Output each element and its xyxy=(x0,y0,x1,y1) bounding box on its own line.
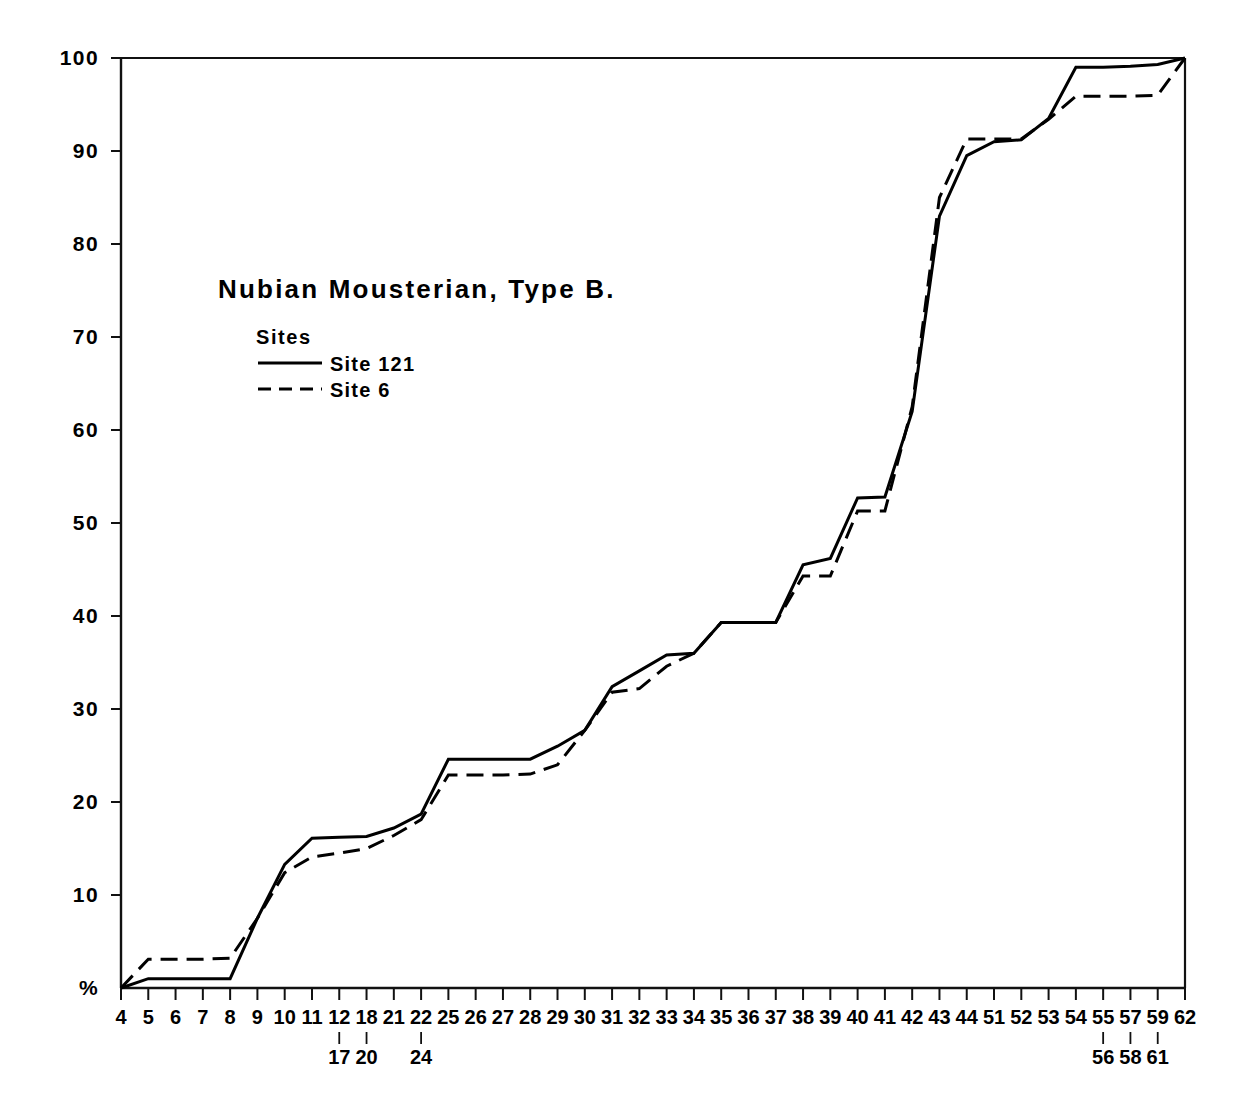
y-tick-label: % xyxy=(79,976,99,999)
data-series-group xyxy=(121,58,1185,988)
x-tick-label: 28 xyxy=(519,1006,541,1028)
x-tick-label: 34 xyxy=(683,1006,706,1028)
legend: Sites Site 121 Site 6 xyxy=(256,326,415,401)
x-tick-label: 33 xyxy=(656,1006,678,1028)
x-tick-label: 40 xyxy=(846,1006,868,1028)
x-tick-label: 36 xyxy=(737,1006,759,1028)
x-tick-label: 25 xyxy=(437,1006,459,1028)
x-tick-sublabel: 61 xyxy=(1147,1046,1169,1068)
series-line-site-6 xyxy=(121,58,1185,988)
y-tick-label: 90 xyxy=(73,139,99,162)
legend-label-site-6: Site 6 xyxy=(330,379,391,401)
legend-title: Sites xyxy=(256,326,312,348)
y-tick-label: 70 xyxy=(73,325,99,348)
y-axis-ticks: 100908070605040302010% xyxy=(60,46,121,999)
x-tick-label: 39 xyxy=(819,1006,841,1028)
y-tick-label: 20 xyxy=(73,790,99,813)
x-tick-sublabel: 20 xyxy=(355,1046,377,1068)
plot-frame xyxy=(121,58,1185,988)
chart-title: Nubian Mousterian, Type B. xyxy=(218,274,616,304)
x-tick-label: 9 xyxy=(252,1006,263,1028)
x-tick-label: 6 xyxy=(170,1006,181,1028)
legend-label-site-121: Site 121 xyxy=(330,353,415,375)
x-tick-label: 57 xyxy=(1119,1006,1141,1028)
y-tick-label: 10 xyxy=(73,883,99,906)
x-tick-label: 11 xyxy=(301,1006,322,1028)
x-tick-label: 41 xyxy=(874,1006,896,1028)
series-line-site-121 xyxy=(121,58,1185,988)
x-tick-sublabel: 56 xyxy=(1092,1046,1114,1068)
x-tick-label: 10 xyxy=(274,1006,296,1028)
figure-container: 100908070605040302010% 45678910111217182… xyxy=(0,0,1233,1093)
x-tick-label: 22 xyxy=(410,1006,432,1028)
x-tick-label: 30 xyxy=(574,1006,596,1028)
x-tick-label: 26 xyxy=(465,1006,487,1028)
x-tick-label: 51 xyxy=(983,1006,1005,1028)
x-tick-label: 43 xyxy=(928,1006,950,1028)
x-tick-label: 44 xyxy=(956,1006,979,1028)
x-tick-label: 4 xyxy=(115,1006,127,1028)
x-tick-label: 27 xyxy=(492,1006,514,1028)
x-tick-label: 38 xyxy=(792,1006,814,1028)
x-tick-label: 12 xyxy=(328,1006,350,1028)
y-tick-label: 60 xyxy=(73,418,99,441)
x-tick-label: 21 xyxy=(383,1006,405,1028)
x-tick-sublabel: 17 xyxy=(328,1046,350,1068)
x-tick-label: 59 xyxy=(1147,1006,1169,1028)
x-tick-label: 55 xyxy=(1092,1006,1114,1028)
x-tick-label: 52 xyxy=(1010,1006,1032,1028)
x-tick-label: 18 xyxy=(355,1006,377,1028)
x-tick-label: 8 xyxy=(225,1006,236,1028)
cumulative-frequency-chart: 100908070605040302010% 45678910111217182… xyxy=(0,0,1233,1093)
y-tick-label: 100 xyxy=(60,46,99,69)
x-tick-label: 53 xyxy=(1037,1006,1059,1028)
x-tick-label: 62 xyxy=(1174,1006,1196,1028)
x-tick-label: 5 xyxy=(143,1006,154,1028)
y-tick-label: 80 xyxy=(73,232,99,255)
x-tick-label: 42 xyxy=(901,1006,923,1028)
x-tick-sublabel: 24 xyxy=(410,1046,433,1068)
x-tick-sublabel: 58 xyxy=(1119,1046,1141,1068)
y-tick-label: 30 xyxy=(73,697,99,720)
x-tick-label: 31 xyxy=(601,1006,623,1028)
x-tick-label: 32 xyxy=(628,1006,650,1028)
x-tick-label: 37 xyxy=(765,1006,787,1028)
x-axis-ticks: 4567891011121718202122242526272829303132… xyxy=(115,988,1196,1068)
x-tick-label: 35 xyxy=(710,1006,732,1028)
y-tick-label: 50 xyxy=(73,511,99,534)
y-tick-label: 40 xyxy=(73,604,99,627)
x-tick-label: 54 xyxy=(1065,1006,1088,1028)
x-tick-label: 7 xyxy=(197,1006,208,1028)
x-tick-label: 29 xyxy=(546,1006,568,1028)
